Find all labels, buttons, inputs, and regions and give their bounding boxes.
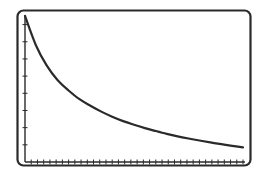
chart bbox=[0, 0, 257, 176]
